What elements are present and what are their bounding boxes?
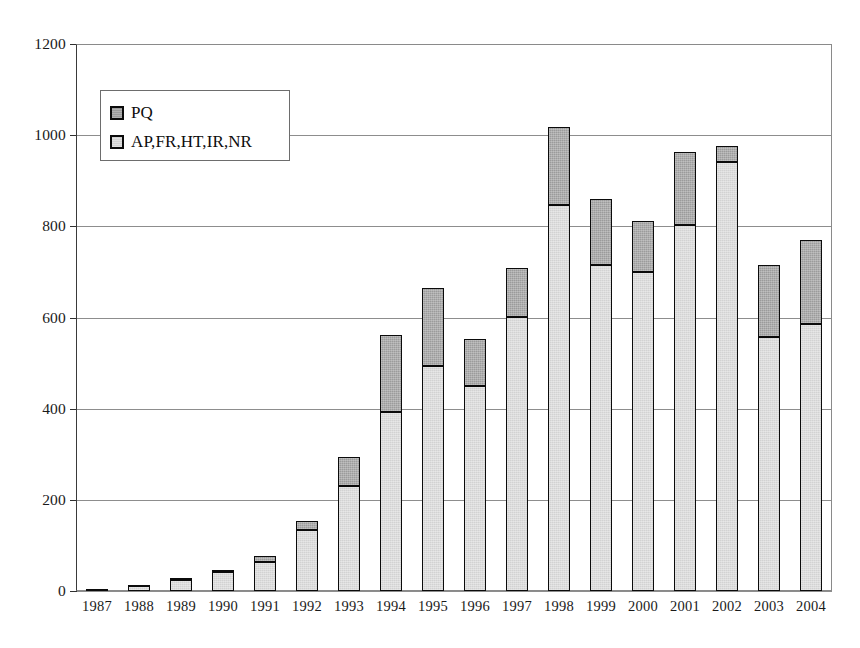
x-axis-tick-label: 2003 [748, 598, 790, 615]
bar-1994 [380, 335, 402, 591]
bar-segment-pq [548, 127, 570, 204]
bar-2000 [632, 221, 654, 591]
bar-segment-others [632, 272, 654, 591]
bar-1991 [254, 556, 276, 591]
y-axis-tick-label: 1200 [0, 35, 66, 53]
legend-entry-others: AP,FR,HT,IR,NR [110, 127, 289, 156]
y-axis-tick-label: 1000 [0, 126, 66, 144]
bar-segment-others [86, 589, 108, 591]
x-axis-tick-label: 1998 [538, 598, 580, 615]
chart-legend: PQ AP,FR,HT,IR,NR [100, 90, 290, 161]
bar-1992 [296, 521, 318, 591]
bar-segment-others [716, 162, 738, 591]
x-axis-tick-label: 1989 [160, 598, 202, 615]
bar-segment-pq [800, 240, 822, 325]
light-gray-swatch-icon [110, 135, 124, 149]
bar-1987 [86, 589, 108, 591]
bar-segment-others [296, 530, 318, 591]
bar-segment-others [170, 580, 192, 591]
bar-segment-pq [674, 152, 696, 225]
bar-segment-others [674, 225, 696, 591]
bar-segment-others [128, 586, 150, 591]
bar-2003 [758, 265, 780, 591]
x-axis-tick-label: 2004 [790, 598, 832, 615]
x-axis-tick-label: 1988 [118, 598, 160, 615]
bar-segment-others [800, 324, 822, 591]
bar-segment-others [506, 317, 528, 591]
x-axis-tick-label: 2001 [664, 598, 706, 615]
y-axis-tick-mark [70, 591, 77, 592]
bar-2004 [800, 240, 822, 591]
x-axis-tick-label: 1990 [202, 598, 244, 615]
bar-segment-pq [380, 335, 402, 412]
bar-1989 [170, 578, 192, 591]
bar-segment-others [254, 562, 276, 591]
bar-segment-others [548, 205, 570, 591]
bar-2002 [716, 146, 738, 591]
bar-1997 [506, 268, 528, 591]
x-axis-tick-label: 1999 [580, 598, 622, 615]
bar-segment-others [212, 572, 234, 591]
bar-segment-others [422, 366, 444, 591]
bar-1995 [422, 288, 444, 591]
x-axis-tick-label: 1995 [412, 598, 454, 615]
bar-segment-pq [422, 288, 444, 365]
legend-label-pq: PQ [131, 104, 153, 121]
x-axis-tick-label: 2002 [706, 598, 748, 615]
legend-entry-pq: PQ [110, 98, 289, 127]
bar-2001 [674, 152, 696, 591]
x-axis-tick-label: 1996 [454, 598, 496, 615]
bar-1990 [212, 570, 234, 591]
bar-segment-pq [506, 268, 528, 317]
bar-segment-pq [632, 221, 654, 272]
bar-segment-others [464, 386, 486, 591]
x-axis-tick-label: 1987 [76, 598, 118, 615]
dark-gray-swatch-icon [110, 106, 124, 120]
bar-segment-pq [590, 199, 612, 265]
bar-segment-others [380, 412, 402, 591]
x-axis-tick-label: 1991 [244, 598, 286, 615]
x-axis-tick-label: 1992 [286, 598, 328, 615]
bar-1993 [338, 457, 360, 591]
bar-segment-others [590, 265, 612, 591]
bar-segment-others [338, 486, 360, 591]
y-axis-tick-label: 600 [0, 309, 66, 327]
bar-1988 [128, 585, 150, 591]
bar-chart: 020040060080010001200 198719881989199019… [0, 0, 860, 648]
legend-label-others: AP,FR,HT,IR,NR [131, 133, 252, 150]
gridline [76, 591, 832, 592]
bar-segment-pq [296, 521, 318, 530]
bar-segment-others [758, 337, 780, 591]
y-axis-tick-label: 0 [0, 582, 66, 600]
bar-segment-pq [338, 457, 360, 486]
bar-1999 [590, 199, 612, 591]
x-axis-tick-label: 1994 [370, 598, 412, 615]
y-axis-tick-label: 400 [0, 400, 66, 418]
bar-1996 [464, 339, 486, 591]
x-axis-tick-label: 2000 [622, 598, 664, 615]
bar-segment-pq [716, 146, 738, 162]
y-axis-tick-label: 800 [0, 217, 66, 235]
x-axis-tick-label: 1997 [496, 598, 538, 615]
bar-segment-pq [464, 339, 486, 386]
x-axis-tick-label: 1993 [328, 598, 370, 615]
bar-segment-pq [758, 265, 780, 337]
y-axis-tick-label: 200 [0, 491, 66, 509]
bar-1998 [548, 127, 570, 591]
